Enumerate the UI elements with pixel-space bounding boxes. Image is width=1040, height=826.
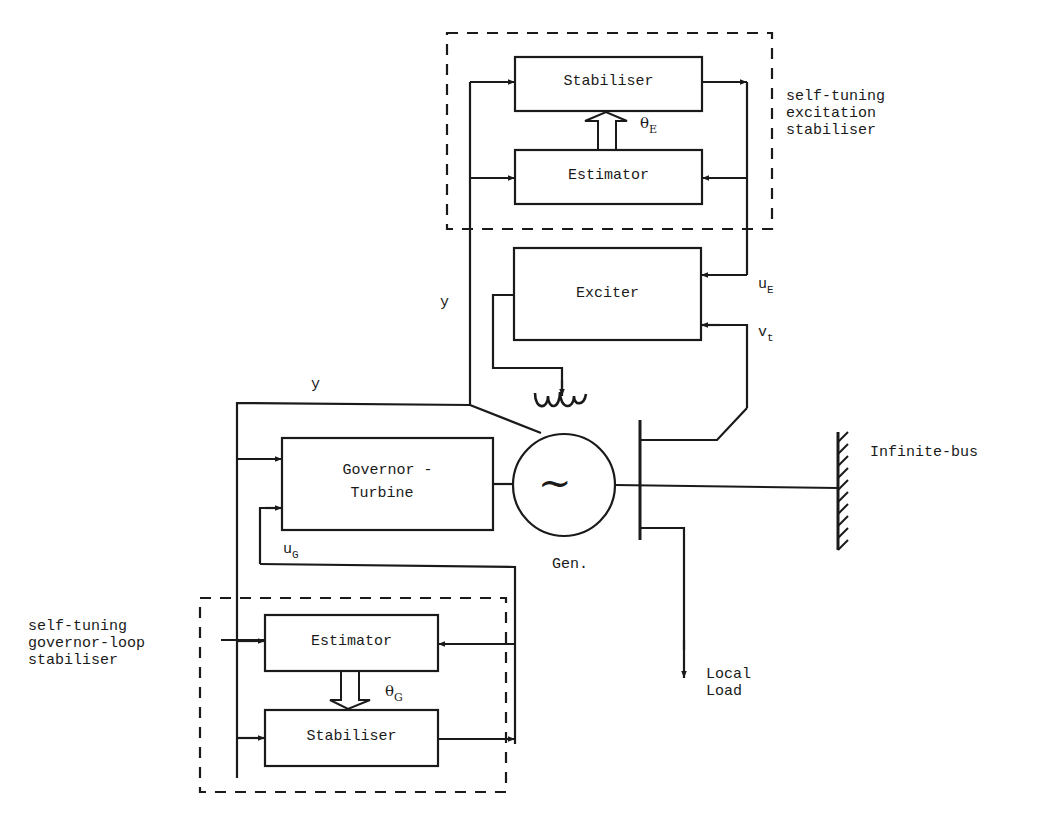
field-winding-icon: [535, 392, 586, 406]
y-lower-label: y: [311, 376, 320, 393]
governor-turbine-label-line2: Turbine: [282, 484, 482, 504]
theta-g-label: θG: [385, 682, 403, 700]
exc-estimator-label: Estimator: [515, 166, 702, 186]
governor-group-boundary: [200, 598, 506, 792]
exc-stabiliser-label: Stabiliser: [515, 72, 702, 92]
u-g-label: uG: [283, 541, 299, 559]
excitation-group-label: self-tuning excitation stabiliser: [786, 88, 885, 139]
v-t-label: vt: [758, 324, 774, 342]
sine-wave-icon: ~: [538, 462, 572, 502]
governor-turbine-label-line1: Governor -: [282, 461, 493, 481]
excitation-group-boundary: [447, 33, 772, 229]
exciter-label: Exciter: [514, 284, 701, 304]
u-e-label: uE: [758, 276, 774, 294]
governor-group-label: self-tuning governor-loop stabiliser: [28, 618, 145, 669]
theta-g-hollow-arrow: [330, 671, 370, 709]
y-upper-label: y: [440, 294, 449, 311]
theta-e-label: θE: [640, 114, 657, 132]
local-load-label: Local Load: [706, 666, 751, 700]
generator-label: Gen.: [552, 556, 588, 573]
gov-stabiliser-label: Stabiliser: [265, 727, 438, 747]
gov-estimator-label: Estimator: [265, 632, 438, 652]
infinite-bus-label: Infinite-bus: [870, 444, 978, 461]
theta-e-hollow-arrow: [585, 112, 627, 150]
